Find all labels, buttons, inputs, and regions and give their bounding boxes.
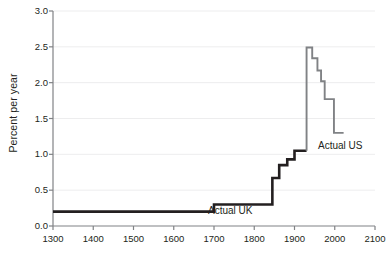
gridlines (53, 11, 375, 190)
axis-ticks (49, 11, 375, 230)
series-label-actual-uk: Actual UK (208, 205, 252, 216)
series-line-actual-uk (53, 151, 307, 212)
chart-container: Percent per year 0.00.51.01.52.02.53.0 1… (0, 0, 386, 257)
series-line-actual-us (307, 48, 344, 151)
plot-area (0, 0, 386, 257)
series-label-actual-us: Actual US (318, 140, 362, 151)
